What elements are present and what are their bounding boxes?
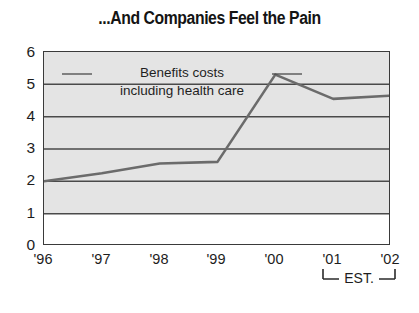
y-tick-label-3: 3: [5, 140, 35, 155]
x-tick-label-99: '99: [196, 252, 236, 267]
x-tick-label-01: '01: [312, 252, 352, 267]
y-tick-label-0: 0: [5, 237, 35, 252]
series-annotation-line-1: Benefits costs: [96, 64, 268, 82]
y-tick-label-1: 1: [5, 205, 35, 220]
y-tick-label-5: 5: [5, 76, 35, 91]
chart-title: ...And Companies Feel the Pain: [21, 8, 398, 28]
est-label: EST.: [322, 269, 396, 287]
y-tick-label-6: 6: [5, 44, 35, 59]
x-tick-label-96: '96: [23, 252, 63, 267]
series-annotation: Benefits costs including health care: [96, 64, 268, 99]
y-tick-label-4: 4: [5, 108, 35, 123]
series-annotation-line-2: including health care: [96, 82, 268, 100]
chart-container: ...And Companies Feel the Pain 6 5 4 3 2…: [0, 0, 419, 313]
x-tick-label-02: '02: [370, 252, 410, 267]
x-tick-label-00: '00: [254, 252, 294, 267]
y-tick-label-2: 2: [5, 172, 35, 187]
x-tick-label-98: '98: [139, 252, 179, 267]
x-tick-label-97: '97: [81, 252, 121, 267]
